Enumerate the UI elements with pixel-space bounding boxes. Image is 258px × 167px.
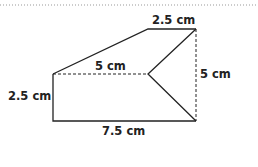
label-right: 5 cm bbox=[200, 67, 231, 81]
label-left: 2.5 cm bbox=[8, 89, 51, 103]
label-middle: 5 cm bbox=[95, 59, 126, 73]
label-top: 2.5 cm bbox=[152, 13, 195, 27]
label-bottom: 7.5 cm bbox=[102, 124, 145, 138]
notch-edges bbox=[148, 29, 196, 121]
rectangle-outline bbox=[53, 74, 196, 121]
composite-shape-diagram: 2.5 cm 5 cm 5 cm 2.5 cm 7.5 cm bbox=[0, 0, 258, 167]
